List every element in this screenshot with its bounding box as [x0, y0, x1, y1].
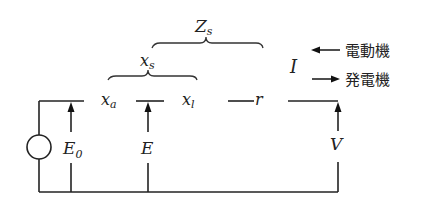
- motor-label: 電動機: [345, 42, 390, 60]
- xa-label: xa: [101, 90, 117, 111]
- arrow-up-icon: [335, 102, 342, 112]
- voltage-source-icon: [27, 135, 51, 159]
- v-label: V: [330, 134, 344, 154]
- zs-label: Zs: [194, 16, 213, 38]
- arrow-up-icon: [145, 102, 152, 112]
- arrow-right-icon: [312, 76, 340, 83]
- generator-label: 発電機: [345, 71, 390, 89]
- e0-label: E0: [62, 138, 82, 161]
- current-label: I: [289, 56, 298, 77]
- e-label: E: [140, 138, 154, 158]
- r-label: r: [255, 90, 264, 109]
- xs-label: xs: [140, 51, 155, 72]
- arrow-left-icon: [311, 47, 340, 54]
- xl-label: xl: [182, 90, 195, 111]
- equivalent-circuit-diagram: E0 E V xa xl r xs Zs I 電動機 発電機: [0, 0, 430, 209]
- zs-brace: [152, 37, 263, 48]
- arrow-up-icon: [68, 102, 75, 112]
